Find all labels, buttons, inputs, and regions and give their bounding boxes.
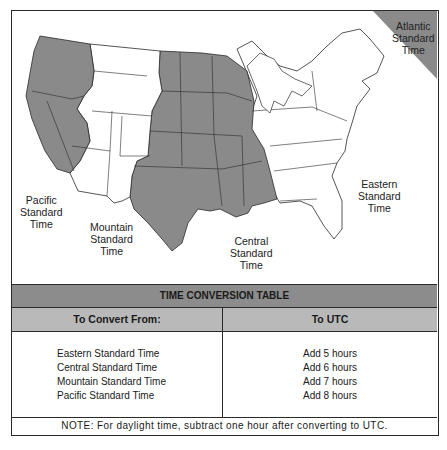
table-title: TIME CONVERSION TABLE [12,284,437,308]
zone-name: Mountain Standard Time [57,375,222,389]
to-utc-column: Add 5 hours Add 6 hours Add 7 hours Add … [223,332,437,417]
utc-offset: Add 8 hours [223,389,437,403]
zone-name: Pacific Standard Time [57,389,222,403]
label-eastern: Eastern Standard Time [358,178,401,214]
daylight-note: NOTE: For daylight time, subtract one ho… [12,417,437,434]
label-central: Central Standard Time [230,235,273,271]
utc-offset: Add 7 hours [223,375,437,389]
zone-name: Eastern Standard Time [57,347,222,361]
utc-offset: Add 6 hours [223,361,437,375]
time-zone-chart: Atlantic Standard Time Eastern Standard … [11,10,439,436]
zone-name: Central Standard Time [57,361,222,375]
header-to-utc: To UTC [223,308,437,332]
header-convert-from: To Convert From: [12,308,223,332]
map-graphic [12,11,437,284]
utc-offset: Add 5 hours [223,347,437,361]
label-pacific: Pacific Standard Time [20,194,63,230]
us-time-zone-map: Atlantic Standard Time Eastern Standard … [12,11,437,284]
label-mountain: Mountain Standard Time [90,221,133,257]
label-atlantic: Atlantic Standard Time [392,20,435,56]
convert-from-column: Eastern Standard Time Central Standard T… [12,332,223,417]
